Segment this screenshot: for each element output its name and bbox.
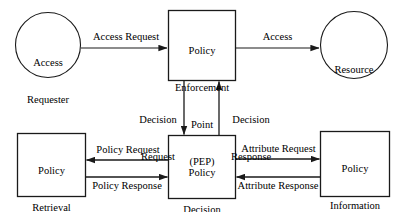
node-policy-enforcement-point[interactable]: [168, 10, 236, 81]
node-policy-information-point[interactable]: [320, 131, 390, 197]
node-access-requester[interactable]: [15, 12, 81, 78]
node-policy-retrieval-point[interactable]: [17, 133, 86, 197]
node-resource[interactable]: [320, 11, 388, 79]
node-policy-decision-point[interactable]: [168, 135, 236, 199]
policy-architecture-diagram: Access Requester Policy Enforcement Poin…: [0, 0, 402, 212]
